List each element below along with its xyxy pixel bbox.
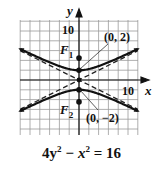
center-point [77, 78, 82, 83]
vertex-top-label: (0, 2) [104, 31, 130, 43]
point-f2 [76, 99, 82, 105]
y-axis-label: y [67, 4, 73, 17]
point--0-2- [76, 87, 82, 93]
leader-lines [80, 44, 108, 110]
equation-caption: 4y2 − x2 = 16 [0, 144, 163, 162]
y-tick-label: 10 [62, 24, 74, 36]
vertex-bottom-label: (0, −2) [86, 112, 119, 124]
point-f1 [76, 55, 82, 61]
focus-f2-label: F2 [60, 103, 73, 120]
x-axis-label: x [145, 84, 152, 97]
focus-f1-label: F1 [60, 43, 73, 60]
y-axis-arrow-icon [76, 9, 82, 17]
x-tick-label: 10 [122, 85, 134, 97]
axes [20, 9, 149, 135]
